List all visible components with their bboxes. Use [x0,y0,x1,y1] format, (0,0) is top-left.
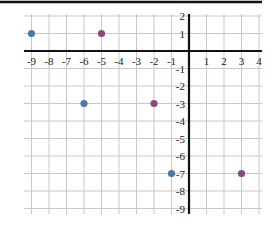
y-tick-label: -7 [176,168,186,180]
x-tick-label: -8 [44,55,54,67]
x-tick-label: -9 [27,55,37,67]
x-tick-label: 1 [204,55,210,67]
y-tick-label: -4 [176,115,186,127]
data-point [80,100,87,107]
y-tick-label: -1 [176,63,185,75]
x-tick-label: 2 [221,55,227,67]
x-tick-label: -1 [167,55,176,67]
x-tick-label: 3 [239,55,245,67]
x-tick-label: -6 [79,55,89,67]
data-point [238,170,245,177]
x-tick-label: -2 [149,55,158,67]
y-tick-label: -9 [176,203,186,215]
tick-labels: -9-8-7-6-5-4-3-2-1123421-1-2-3-4-5-6-7-8… [27,10,262,215]
y-tick-label: -6 [176,150,186,162]
data-point [98,30,105,37]
coordinate-plane: -9-8-7-6-5-4-3-2-1123421-1-2-3-4-5-6-7-8… [0,0,278,229]
y-tick-label: -3 [176,98,186,110]
x-tick-label: -4 [114,55,124,67]
x-tick-label: -3 [132,55,142,67]
x-tick-label: 4 [256,55,262,67]
grid-lines [24,14,262,214]
data-point [150,100,157,107]
data-point [28,30,35,37]
y-tick-label: -8 [176,185,186,197]
y-tick-label: -2 [176,80,185,92]
data-point [168,170,175,177]
x-tick-label: -5 [97,55,107,67]
y-tick-label: -5 [176,133,186,145]
y-tick-label: 1 [180,28,186,40]
axes [24,14,262,214]
y-tick-label: 2 [180,10,186,22]
x-tick-label: -7 [62,55,72,67]
